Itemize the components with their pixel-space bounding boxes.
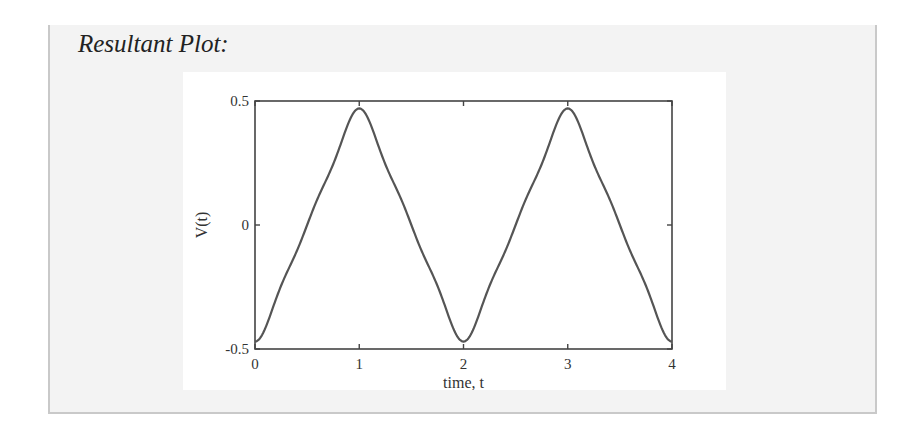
axes bbox=[255, 101, 672, 349]
y-tick-label: 0.5 bbox=[230, 93, 249, 109]
x-tick-label: 4 bbox=[668, 356, 676, 372]
x-axis-label: time, t bbox=[443, 374, 484, 390]
series-line bbox=[255, 108, 672, 341]
y-tick-label: 0 bbox=[242, 217, 250, 233]
tick-labels: 01234-0.500.5 bbox=[225, 93, 676, 372]
figure-area: 01234-0.500.5 time, t V(t) bbox=[183, 72, 726, 390]
x-tick-label: 1 bbox=[356, 356, 364, 372]
x-tick-label: 2 bbox=[460, 356, 468, 372]
axes-box bbox=[255, 101, 672, 349]
x-tick-label: 3 bbox=[564, 356, 572, 372]
section-title: Resultant Plot: bbox=[78, 30, 229, 58]
y-tick-label: -0.5 bbox=[225, 341, 249, 357]
ticks bbox=[255, 101, 672, 349]
y-axis-label: V(t) bbox=[193, 212, 211, 239]
line-chart: 01234-0.500.5 time, t V(t) bbox=[183, 72, 726, 390]
x-tick-label: 0 bbox=[251, 356, 259, 372]
